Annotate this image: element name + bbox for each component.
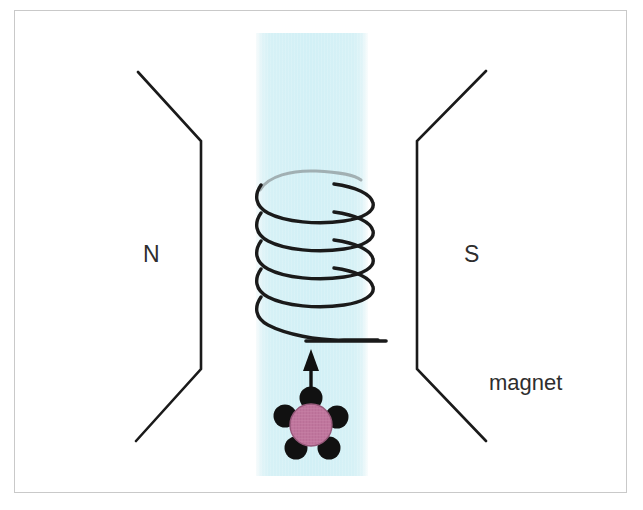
figure-root: N S magnet <box>0 0 643 510</box>
north-pole-label: N <box>143 243 160 266</box>
helical-coil <box>257 184 378 340</box>
south-pole-label: S <box>464 243 480 266</box>
charged-particle-texture <box>291 405 331 445</box>
magnet-label: magnet <box>489 372 562 394</box>
diagram-vector-layer <box>0 0 643 510</box>
